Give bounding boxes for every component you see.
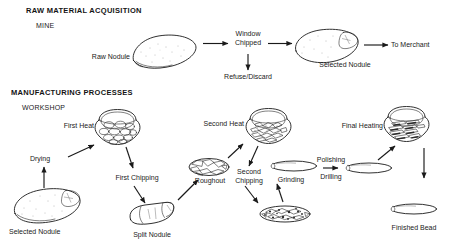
raw-nodule-shape — [133, 35, 196, 68]
label-selected-nodule-workshop: Selected Nodule — [9, 228, 60, 237]
label-to-merchant: To Merchant — [391, 41, 430, 50]
label-split-nodule: Split Nodule — [133, 231, 171, 240]
first-heat-hearth-shape — [95, 110, 140, 145]
arrow-drying-to-first-heat — [68, 145, 94, 157]
label-first-chipping: First Chipping — [115, 174, 158, 183]
arrow-second-chipping-to-chip-cluster — [245, 186, 258, 203]
arrow-first-chipping-to-split-nodule — [134, 186, 145, 203]
label-selected-nodule-top: Selected Nodule — [319, 61, 370, 70]
second-heat-hearth-shape — [246, 109, 291, 144]
arrow-chip-cluster-to-grinding — [277, 184, 283, 202]
chipped-blank-cluster-shape — [260, 206, 310, 222]
label-grinding: Grinding — [278, 176, 304, 185]
label-drilling: Drilling — [320, 173, 341, 182]
arrow-first-heat-to-first-chipping — [126, 147, 133, 168]
label-window-chipped: Window Chipped — [235, 30, 261, 47]
arrow-second-heat-to-second-chipping — [249, 146, 258, 166]
label-raw-nodule: Raw Nodule — [92, 53, 130, 62]
polished-bead-shape — [346, 163, 391, 173]
label-refuse-discard: Refuse/Discard — [224, 73, 272, 82]
arrow-polished-bead-to-final-heating — [378, 146, 395, 160]
label-finished-bead: Finished Bead — [392, 224, 437, 233]
label-second-heat: Second Heat — [204, 120, 244, 129]
label-second-chipping: Second Chipping — [235, 168, 263, 185]
bead-manufacture-flow-diagram: RAW MATERIAL ACQUISITION MINE MANUFACTUR… — [0, 0, 461, 244]
label-drying: Drying — [30, 155, 50, 164]
label-roughout: Roughout — [195, 177, 225, 186]
finished-bead-shape — [391, 204, 436, 214]
label-polishing: Polishing — [317, 156, 345, 165]
arrow-roughout-to-second-heat — [228, 144, 243, 158]
label-first-heat: First Heat — [64, 122, 94, 131]
label-final-heating: Final Heating — [342, 122, 383, 131]
roughout-shape — [189, 159, 229, 176]
selected-nodule-workshop-shape — [14, 189, 80, 223]
final-heating-hearth-shape — [384, 107, 429, 142]
ground-bead-shape — [271, 161, 316, 171]
split-nodule-shape — [130, 202, 174, 224]
selected-nodule-top-shape — [295, 29, 358, 62]
